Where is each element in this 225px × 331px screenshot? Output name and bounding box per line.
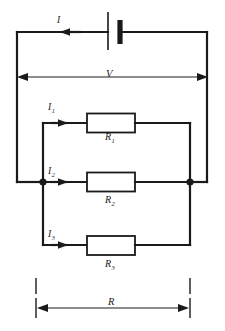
equivalent-resistance-arrow-head-left [37,304,48,312]
junction-node-right [186,178,193,185]
label-total-current-text: I [57,15,60,25]
circuit-diagram: I V I1 R1 I2 R2 I3 R3 R [0,0,225,331]
label-branch2-current: I2 [48,167,54,177]
label-branch2-current-text: I [48,166,51,176]
label-branch1-current-subscript: 1 [52,107,55,114]
label-branch3-current-text: I [48,229,51,239]
label-branch2-current-subscript: 2 [52,171,55,178]
resistor-r2-body [87,173,135,192]
label-resistor-r2: R2 [105,195,114,205]
label-resistor-r3-subscript: 3 [112,264,115,271]
label-resistor-r1-subscript: 1 [112,137,115,144]
current-arrow-head-branch3 [58,241,68,249]
label-resistor-r3: R3 [105,259,114,269]
resistor-r3-body [87,236,135,255]
label-total-current: I [57,16,60,26]
label-branch3-current-subscript: 3 [52,234,55,241]
equivalent-resistance-arrow-head-right [178,304,189,312]
label-branch1-current: I1 [48,103,54,113]
voltage-arrow-head-left [17,73,28,81]
label-resistor-r3-text: R [105,258,111,269]
current-arrow-head-total [60,28,70,36]
label-branch3-current: I3 [48,230,54,240]
label-resistor-r2-subscript: 2 [112,200,115,207]
label-equivalent-resistance: R [108,297,114,308]
label-source-voltage-text: V [106,68,112,79]
label-source-voltage: V [106,69,112,80]
label-resistor-r1-text: R [105,131,111,142]
circuit-schematic-canvas [0,0,225,331]
label-branch1-current-text: I [48,102,51,112]
label-resistor-r2-text: R [105,194,111,205]
current-arrow-head-branch2 [58,178,68,186]
label-resistor-r1: R1 [105,132,114,142]
current-arrow-head-branch1 [58,119,68,127]
junction-node-left [39,178,46,185]
resistor-r1-body [87,114,135,133]
label-equivalent-resistance-text: R [108,296,114,307]
